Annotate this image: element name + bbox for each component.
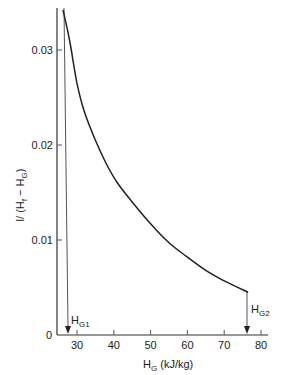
x-tick-label: 50 (144, 339, 156, 351)
y-axis-label: l/ (Hf − HG) (14, 169, 29, 222)
chart: 00.010.020.03 304050607080 HG1 HG2 l/ (H… (0, 0, 287, 375)
hg1-label: HG1 (71, 314, 90, 329)
x-axis-label: HG (kJ/kg) (143, 358, 193, 373)
y-tick-label: 0 (46, 329, 52, 341)
hg2-arrow-icon (244, 326, 250, 334)
y-tick-label: 0.01 (32, 234, 53, 246)
x-tick-label: 80 (255, 339, 267, 351)
hg1-marker-line (64, 8, 68, 326)
x-tick-label: 40 (108, 339, 120, 351)
data-curve (63, 10, 248, 292)
x-tick-label: 70 (218, 339, 230, 351)
y-tick-label: 0.02 (32, 139, 53, 151)
x-tick-label: 60 (181, 339, 193, 351)
hg1-arrow-icon (65, 326, 71, 334)
x-ticks: 304050607080 (71, 330, 267, 351)
y-tick-label: 0.03 (32, 44, 53, 56)
x-tick-label: 30 (71, 339, 83, 351)
hg2-label: HG2 (251, 303, 270, 318)
